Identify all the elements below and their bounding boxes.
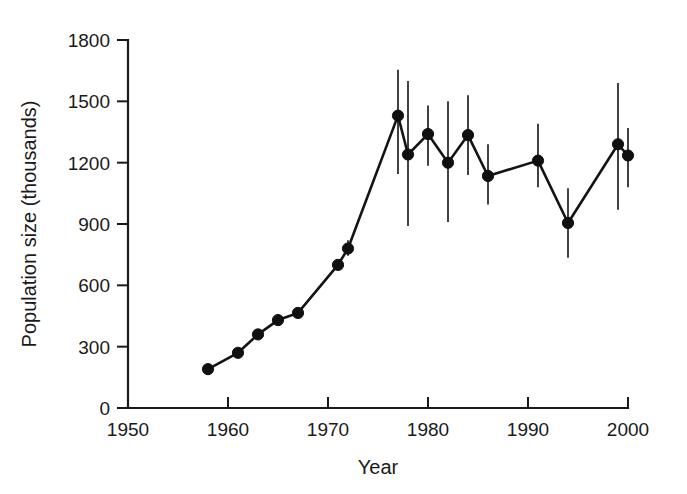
data-point-marker [562, 217, 573, 228]
data-point-marker [402, 149, 413, 160]
data-point-marker [272, 314, 283, 325]
x-tick-label: 1980 [407, 419, 449, 440]
data-point-marker [422, 128, 433, 139]
y-axis-tick-labels: 0300600900120015001800 [68, 30, 110, 419]
x-axis-tick-labels: 195019601970198019902000 [107, 419, 649, 440]
y-tick-label: 300 [78, 337, 110, 358]
data-point-marker [252, 329, 263, 340]
x-axis-title: Year [358, 456, 399, 478]
data-point-marker [442, 157, 453, 168]
y-axis-title: Population size (thousands) [18, 101, 40, 348]
y-tick-label: 0 [99, 398, 110, 419]
series-line-population [208, 116, 628, 370]
data-point-marker [332, 259, 343, 270]
y-tick-label: 1500 [68, 91, 110, 112]
x-tick-label: 1960 [207, 419, 249, 440]
data-point-marker [622, 150, 633, 161]
y-tick-label: 600 [78, 275, 110, 296]
data-point-marker [202, 364, 213, 375]
x-axis-ticks [128, 397, 628, 408]
error-bars [338, 70, 628, 268]
data-point-marker [292, 307, 303, 318]
series-markers-population [202, 110, 633, 375]
x-tick-label: 1950 [107, 419, 149, 440]
chart-canvas: 0300600900120015001800 19501960197019801… [0, 0, 687, 494]
data-point-marker [612, 139, 623, 150]
y-tick-label: 1200 [68, 153, 110, 174]
x-tick-label: 1970 [307, 419, 349, 440]
y-tick-label: 1800 [68, 30, 110, 51]
data-point-marker [232, 347, 243, 358]
data-point-marker [462, 129, 473, 140]
x-tick-label: 1990 [507, 419, 549, 440]
x-tick-label: 2000 [607, 419, 649, 440]
data-point-marker [532, 155, 543, 166]
y-axis-ticks [117, 40, 128, 408]
data-point-marker [482, 170, 493, 181]
population-time-series-chart: 0300600900120015001800 19501960197019801… [0, 0, 687, 494]
y-tick-label: 900 [78, 214, 110, 235]
data-point-marker [342, 243, 353, 254]
data-point-marker [392, 110, 403, 121]
